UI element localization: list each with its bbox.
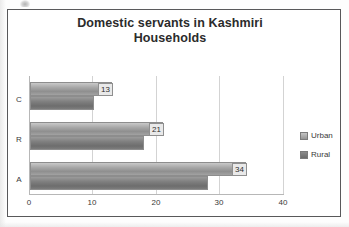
bar-rural-c[interactable] xyxy=(30,96,94,110)
category-label-r: R xyxy=(11,135,27,144)
chart-frame: Domestic servants in Kashmiri Households… xyxy=(7,9,341,217)
gridline-30 xyxy=(219,76,220,195)
x-tick-0: 0 xyxy=(19,198,39,207)
legend-swatch-icon-rural xyxy=(300,151,308,159)
gridline-40 xyxy=(283,76,284,195)
data-label-urban-c: 13 xyxy=(98,83,113,96)
chart-title-line-1: Domestic servants in Kashmiri xyxy=(46,16,294,31)
chart-legend: Urban Rural xyxy=(300,129,333,167)
bar-rural-r[interactable] xyxy=(30,136,144,150)
data-label-urban-r: 21 xyxy=(149,123,164,136)
scan-artifact xyxy=(20,0,30,7)
bar-rural-a[interactable] xyxy=(30,176,208,190)
scan-edge-shadow-bottom xyxy=(0,222,349,227)
bar-urban-a[interactable] xyxy=(30,162,246,176)
category-label-c: C xyxy=(11,95,27,104)
chart-screenshot: Domestic servants in Kashmiri Households… xyxy=(0,0,349,227)
legend-item-urban[interactable]: Urban xyxy=(300,129,333,142)
chart-title-line-2: Households xyxy=(46,31,294,46)
legend-swatch-icon-urban xyxy=(300,132,308,140)
x-tick-10: 10 xyxy=(82,198,102,207)
category-label-a: A xyxy=(11,175,27,184)
x-tick-20: 20 xyxy=(146,198,166,207)
x-axis-ticks: 0 10 20 30 40 xyxy=(29,198,291,212)
data-label-urban-a: 34 xyxy=(232,163,247,176)
x-tick-40: 40 xyxy=(273,198,293,207)
x-tick-30: 30 xyxy=(209,198,229,207)
x-axis-line xyxy=(29,194,284,195)
legend-label-urban: Urban xyxy=(311,131,333,140)
chart-title: Domestic servants in Kashmiri Households xyxy=(46,16,294,46)
plot-area: 13 21 34 xyxy=(29,76,284,195)
legend-item-rural[interactable]: Rural xyxy=(300,148,333,161)
scan-edge-shadow-left xyxy=(0,0,6,227)
bar-urban-r[interactable] xyxy=(30,122,163,136)
legend-label-rural: Rural xyxy=(311,150,330,159)
